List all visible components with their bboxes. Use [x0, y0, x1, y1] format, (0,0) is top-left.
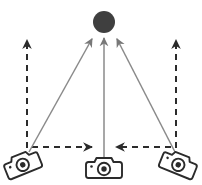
camera-convergence-diagram: Three-camera convergence on a target	[0, 0, 202, 185]
right-camera-sight-line	[117, 39, 175, 152]
camera-lens-inner-icon	[19, 161, 26, 168]
camera-lens-inner-icon	[101, 166, 106, 171]
camera-icon	[86, 158, 122, 178]
sight-lines-group	[29, 38, 175, 158]
left-camera-sight-line	[29, 39, 92, 152]
right-camera	[158, 148, 199, 180]
camera-flash-icon	[90, 165, 93, 168]
camera-icon	[158, 148, 199, 180]
motion-arrows-group	[27, 40, 176, 148]
center-camera	[86, 158, 122, 178]
camera-flash-icon	[9, 166, 12, 169]
target-object	[93, 11, 115, 33]
camera-lens-inner-icon	[175, 161, 182, 168]
diagram-canvas	[0, 0, 202, 185]
camera-flash-icon	[166, 156, 169, 159]
left-camera	[2, 148, 43, 180]
camera-icon	[2, 148, 43, 180]
